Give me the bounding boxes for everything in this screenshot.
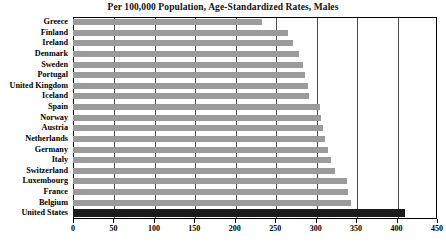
bar (73, 104, 320, 110)
bar-row (73, 49, 437, 60)
bar (73, 93, 309, 99)
bar (73, 209, 405, 217)
bar-row (73, 187, 437, 198)
tick-mark (316, 219, 317, 223)
bar-row (73, 155, 437, 166)
category-label: Netherlands (0, 134, 71, 145)
category-label: Belgium (0, 198, 71, 209)
tick-mark (154, 219, 155, 223)
tick-label: 100 (148, 224, 160, 233)
bar (73, 72, 305, 78)
category-label: Portugal (0, 70, 71, 81)
bar-row (73, 198, 437, 209)
category-axis-labels: GreeceFinlandIrelandDenmarkSwedenPortuga… (0, 17, 71, 219)
tick-label: 300 (310, 224, 322, 233)
bar (73, 136, 325, 142)
tick-label: 400 (391, 224, 403, 233)
bar (73, 62, 303, 68)
category-label: Denmark (0, 49, 71, 60)
tick-mark (275, 219, 276, 223)
bar-row (73, 134, 437, 145)
bar (73, 200, 351, 206)
tick-label: 150 (188, 224, 200, 233)
tick-mark (73, 219, 74, 223)
tick-label: 200 (229, 224, 241, 233)
tick-label: 450 (431, 224, 443, 233)
bar-row (73, 208, 437, 219)
bar-row (73, 166, 437, 177)
bars-layer (73, 17, 437, 219)
tick-mark (113, 219, 114, 223)
bar (73, 40, 293, 46)
tick-mark (356, 219, 357, 223)
tick-mark (235, 219, 236, 223)
bar-row (73, 28, 437, 39)
bar-row (73, 102, 437, 113)
bar-row (73, 176, 437, 187)
chart-title: Per 100,000 Population, Age-Standardized… (0, 0, 446, 14)
category-label: Ireland (0, 38, 71, 49)
category-label: France (0, 187, 71, 198)
bar-row (73, 70, 437, 81)
bar (73, 147, 328, 153)
bar (73, 19, 262, 25)
bar-row (73, 91, 437, 102)
category-label: Finland (0, 28, 71, 39)
category-label: Austria (0, 123, 71, 134)
category-label: Greece (0, 17, 71, 28)
bar (73, 30, 288, 36)
bar (73, 125, 323, 131)
category-label: Germany (0, 145, 71, 156)
bar-row (73, 81, 437, 92)
category-label: Iceland (0, 91, 71, 102)
bar-row (73, 38, 437, 49)
bar (73, 157, 331, 163)
category-label: Italy (0, 155, 71, 166)
tick-mark (437, 219, 438, 223)
bar (73, 168, 335, 174)
bar-row (73, 17, 437, 28)
bar (73, 83, 308, 89)
tick-label: 250 (269, 224, 281, 233)
category-label: United Kingdom (0, 81, 71, 92)
category-label: Spain (0, 102, 71, 113)
tick-label: 50 (109, 224, 117, 233)
bar-row (73, 123, 437, 134)
bar (73, 178, 347, 184)
bar-chart: Per 100,000 Population, Age-Standardized… (0, 0, 446, 249)
tick-mark (397, 219, 398, 223)
tick-label: 0 (71, 224, 75, 233)
tick-mark (194, 219, 195, 223)
category-label: Switzerland (0, 166, 71, 177)
tick-label: 350 (350, 224, 362, 233)
category-label: Luxembourg (0, 176, 71, 187)
bar-row (73, 60, 437, 71)
bar-row (73, 145, 437, 156)
category-label: Sweden (0, 60, 71, 71)
bar-row (73, 113, 437, 124)
value-axis: 050100150200250300350400450 (73, 219, 437, 239)
bar (73, 189, 348, 195)
category-label: Norway (0, 113, 71, 124)
bar (73, 51, 299, 57)
bar (73, 115, 321, 121)
category-label: United States (0, 208, 71, 219)
